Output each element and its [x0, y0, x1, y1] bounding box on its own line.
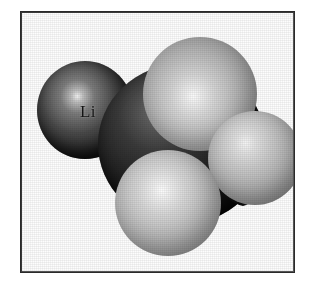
molecular-model-plate: Li — [22, 13, 293, 271]
atom-hydrogen-sphere-right — [208, 111, 293, 205]
atom-hydrogen-sphere-bottom — [115, 150, 221, 256]
figure-root: Li — [0, 0, 312, 286]
